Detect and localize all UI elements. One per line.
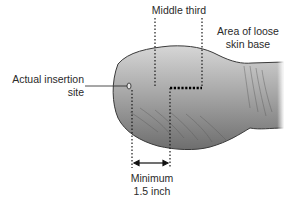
double-arrow-icon bbox=[134, 161, 168, 166]
label-loose-skin-line1: Area of loose bbox=[214, 25, 282, 37]
label-loose-skin-line2: skin base bbox=[214, 38, 282, 50]
insertion-site-diagram: Middle third Area of loose skin base Act… bbox=[0, 0, 284, 199]
label-minimum-line2: 1.5 inch bbox=[122, 185, 182, 197]
label-middle-third: Middle third bbox=[146, 4, 212, 16]
label-insertion-line2: site bbox=[0, 86, 84, 98]
label-minimum-line1: Minimum bbox=[122, 172, 182, 184]
label-insertion-line1: Actual insertion bbox=[0, 73, 84, 85]
insertion-site-marker bbox=[127, 83, 131, 89]
